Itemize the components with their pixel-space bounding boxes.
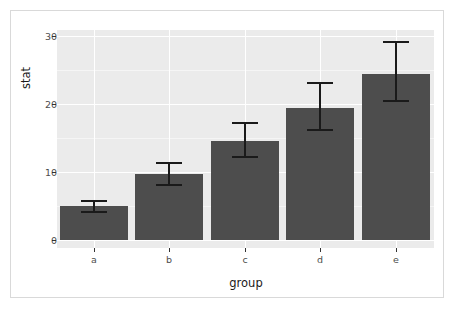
error-bar-cap-lower-a — [81, 211, 107, 213]
x-tick-label-d: d — [300, 255, 340, 265]
x-tick-label-c: c — [225, 255, 265, 265]
x-tick-mark — [169, 248, 170, 252]
x-tick-mark — [320, 248, 321, 252]
error-bar-stem-b — [168, 162, 169, 185]
error-bar-cap-upper-c — [232, 122, 258, 124]
x-tick-mark — [94, 248, 95, 252]
x-axis: a b c d e — [57, 248, 434, 278]
error-bar-cap-lower-b — [156, 184, 182, 186]
x-tick-mark — [245, 248, 246, 252]
error-bar-cap-upper-d — [307, 82, 333, 84]
plot-panel — [57, 30, 434, 248]
error-bar-cap-lower-d — [307, 129, 333, 131]
bar-chart-figure: 30 20 10 0 stat — [0, 0, 456, 309]
x-tick-label-b: b — [149, 255, 189, 265]
error-bar-stem-d — [319, 82, 320, 130]
y-tick-mark — [52, 240, 56, 241]
x-tick-mark — [396, 248, 397, 252]
error-bar-cap-upper-e — [383, 41, 409, 43]
error-bar-cap-upper-b — [156, 162, 182, 164]
y-axis-title: stat — [16, 38, 36, 118]
x-tick-label-a: a — [74, 255, 114, 265]
error-bar-cap-lower-c — [232, 156, 258, 158]
error-bar-cap-lower-e — [383, 100, 409, 102]
y-tick-mark — [52, 172, 56, 173]
y-tick-mark — [52, 104, 56, 105]
x-axis-title: group — [57, 276, 435, 290]
x-tick-label-e: e — [376, 255, 416, 265]
y-tick-mark — [52, 36, 56, 37]
error-bar-stem-c — [244, 122, 245, 157]
error-bar-stem-e — [395, 41, 396, 101]
error-bar-cap-upper-a — [81, 200, 107, 202]
